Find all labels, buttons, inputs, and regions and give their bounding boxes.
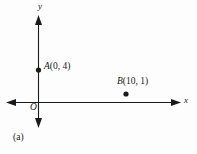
origin-label: O [30,103,37,113]
x-axis-right-arrowhead [171,99,181,106]
x-axis-label: x [184,96,188,105]
point-label-b-coords: (10, 1) [123,76,148,86]
point-label-a-coords: (0, 4) [50,61,71,71]
axes-drawing [0,0,197,154]
point-label-a: A(0, 4) [44,62,70,72]
y-axis-down-arrowhead [35,118,42,128]
y-axis-label: y [38,2,42,11]
point-marker-a [36,67,41,72]
point-marker-b [123,91,128,96]
point-label-b: B(10, 1) [117,77,148,87]
y-axis-up-arrowhead [35,15,42,25]
x-axis-left-arrowhead [6,99,16,106]
figure-caption: (a) [13,133,24,143]
coordinate-plane-figure: A(0, 4) B(10, 1) y x O (a) [0,0,197,154]
